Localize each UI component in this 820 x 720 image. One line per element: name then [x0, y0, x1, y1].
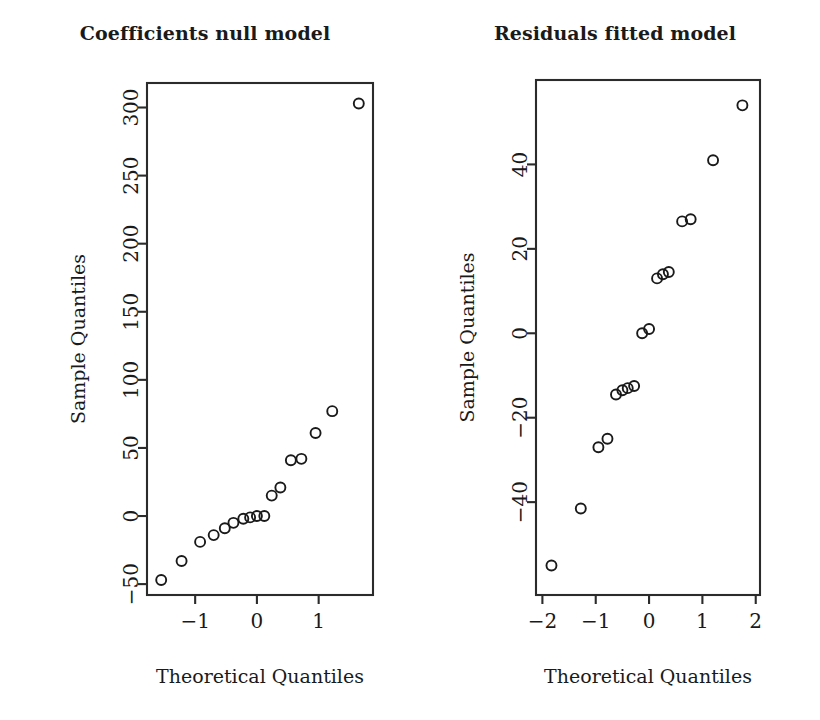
data-point — [546, 560, 556, 570]
y-axis-title: Sample Quantiles — [456, 252, 478, 422]
y-tick-label: 50 — [119, 435, 143, 460]
x-tick-label: −1 — [581, 609, 610, 633]
y-tick-label: −50 — [119, 563, 143, 605]
x-axis-title: Theoretical Quantiles — [544, 665, 752, 687]
data-point — [296, 454, 306, 464]
y-tick-label: 250 — [119, 157, 143, 195]
data-point — [602, 434, 612, 444]
data-point — [708, 155, 718, 165]
data-point — [209, 530, 219, 540]
panel-residuals-fitted-model: Residuals fitted model −40−2002040−2−101… — [410, 0, 820, 720]
x-tick-label: 1 — [312, 609, 325, 633]
data-point — [737, 100, 747, 110]
data-point — [228, 518, 238, 528]
data-point — [576, 503, 586, 513]
y-tick-label: −40 — [508, 481, 532, 523]
x-tick-label: 1 — [696, 609, 709, 633]
data-point — [286, 455, 296, 465]
data-point — [327, 406, 337, 416]
y-tick-label: 200 — [119, 225, 143, 263]
data-point — [311, 428, 321, 438]
y-tick-label: 0 — [508, 327, 532, 340]
data-point — [629, 381, 639, 391]
x-tick-label: 0 — [643, 609, 656, 633]
y-tick-label: 0 — [119, 510, 143, 523]
y-axis-title: Sample Quantiles — [67, 254, 89, 424]
data-point — [156, 575, 166, 585]
x-tick-label: −1 — [180, 609, 209, 633]
plot-area-right: −40−2002040−2−1012Theoretical QuantilesS… — [410, 0, 820, 720]
y-tick-label: 40 — [508, 152, 532, 177]
x-tick-label: 2 — [749, 609, 762, 633]
y-tick-label: 20 — [508, 236, 532, 261]
plot-area-left: −50050100150200250300−101Theoretical Qua… — [0, 0, 410, 720]
y-tick-label: −20 — [508, 397, 532, 439]
y-tick-label: 100 — [119, 361, 143, 399]
data-point — [664, 267, 674, 277]
data-point — [267, 491, 277, 501]
data-point — [259, 511, 269, 521]
data-point — [177, 556, 187, 566]
y-tick-label: 150 — [119, 293, 143, 331]
panel-coefficients-null-model: Coefficients null model −500501001502002… — [0, 0, 410, 720]
qq-plot-figure: Coefficients null model −500501001502002… — [0, 0, 820, 720]
data-point — [354, 98, 364, 108]
y-tick-label: 300 — [119, 88, 143, 126]
data-point — [275, 482, 285, 492]
data-point — [593, 442, 603, 452]
x-tick-label: 0 — [251, 609, 264, 633]
x-axis-title: Theoretical Quantiles — [156, 665, 364, 687]
x-tick-label: −2 — [528, 609, 557, 633]
plot-frame — [536, 80, 760, 595]
data-point — [195, 537, 205, 547]
